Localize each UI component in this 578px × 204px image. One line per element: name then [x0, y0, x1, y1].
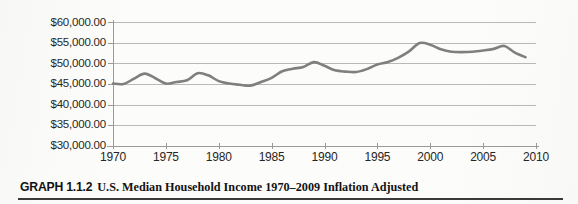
x-axis-tick [113, 143, 114, 149]
x-tick-label: 1980 [206, 150, 232, 164]
caption-text: U.S. Median Household Income 1970–2009 I… [97, 180, 418, 194]
x-axis-tick [377, 143, 378, 149]
figure-caption: GRAPH 1.1.2U.S. Median Household Income … [20, 180, 560, 195]
x-tick-label: 1990 [312, 150, 338, 164]
gridline-40000 [113, 105, 536, 106]
y-axis-tick [108, 22, 114, 23]
y-axis-tick [108, 43, 114, 44]
x-axis-tick [325, 143, 326, 149]
y-tick-label: $40,000.00 [10, 98, 106, 110]
y-tick-label: $35,000.00 [10, 118, 106, 130]
x-axis-line [107, 146, 539, 147]
x-axis-tick [430, 143, 431, 149]
x-axis-tick [272, 143, 273, 149]
x-tick-label: 1995 [364, 150, 390, 164]
y-axis-tick [108, 125, 114, 126]
caption-rule [18, 198, 563, 200]
y-tick-label: $30,000.00 [10, 139, 106, 151]
gridline-60000 [113, 22, 536, 23]
x-tick-label: 1970 [100, 150, 126, 164]
x-tick-label: 2010 [523, 150, 549, 164]
x-tick-label: 2005 [470, 150, 496, 164]
y-tick-label: $60,000.00 [10, 16, 106, 28]
y-axis-tick [108, 105, 114, 106]
gridline-45000 [113, 84, 536, 85]
gridline-55000 [113, 43, 536, 44]
x-tick-label: 2000 [417, 150, 443, 164]
x-axis-tick [219, 143, 220, 149]
y-axis-tick [108, 63, 114, 64]
x-tick-label: 1985 [259, 150, 285, 164]
y-tick-label: $50,000.00 [10, 57, 106, 69]
plot-area [113, 22, 536, 146]
x-axis-tick [483, 143, 484, 149]
y-tick-label: $55,000.00 [10, 36, 106, 48]
gridline-35000 [113, 125, 536, 126]
x-axis-tick [166, 143, 167, 149]
x-tick-label: 1975 [153, 150, 179, 164]
graph-figure: $60,000.00 $55,000.00 $50,000.00 $45,000… [0, 0, 578, 204]
y-axis-tick [108, 84, 114, 85]
x-axis-tick [536, 143, 537, 149]
y-axis-labels: $60,000.00 $55,000.00 $50,000.00 $45,000… [8, 0, 106, 170]
y-tick-label: $45,000.00 [10, 77, 106, 89]
gridline-50000 [113, 63, 536, 64]
caption-label: GRAPH 1.1.2 [20, 180, 92, 194]
